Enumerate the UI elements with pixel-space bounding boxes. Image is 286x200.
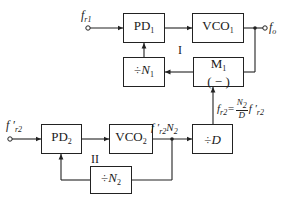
divider-n2: ÷N2 <box>90 166 132 194</box>
divider-n1: ÷N1 <box>123 57 165 87</box>
vco2-label: VCO <box>115 129 142 144</box>
vco2-sub: 2 <box>143 137 147 146</box>
div-n2-var: N <box>108 170 117 185</box>
pd2-label: PD <box>51 129 68 144</box>
m1-label: M <box>211 56 223 71</box>
m1-sub: 1 <box>222 64 226 73</box>
vco-1: VCO1 <box>192 13 244 43</box>
loop-ii-label: II <box>91 152 99 167</box>
div-n1-sub: 1 <box>150 70 154 79</box>
fr2-equation-label: fr2=N2Df ′r2 <box>217 98 264 120</box>
vco1-sub: 1 <box>230 26 234 35</box>
pd2-sub: 2 <box>68 137 72 146</box>
pd1-label: PD <box>134 18 151 33</box>
vco2-output-label: f ′r2N2 <box>151 121 178 136</box>
divider-d: ÷D <box>192 124 233 154</box>
phase-detector-1: PD1 <box>123 13 165 43</box>
phase-detector-2: PD2 <box>41 124 82 154</box>
div-n1-var: N <box>141 62 150 77</box>
input-fr1-label: fr1 <box>81 8 91 24</box>
output-fo-label: fo <box>269 20 276 36</box>
div-n2-sub: 2 <box>117 178 121 187</box>
mixer-m1: M1 ( − ) <box>193 57 244 87</box>
m1-subtract: ( − ) <box>207 75 230 88</box>
vco1-label: VCO <box>202 18 229 33</box>
pd1-sub: 1 <box>150 26 154 35</box>
input-fr2-label: f ′r2 <box>6 118 22 134</box>
div-d-var: D <box>211 132 220 147</box>
loop-i-label: I <box>178 43 182 58</box>
vco-2: VCO2 <box>109 124 153 154</box>
